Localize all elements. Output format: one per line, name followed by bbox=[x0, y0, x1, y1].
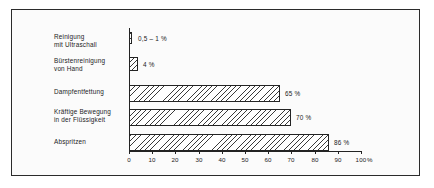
category-label-buerstenreinigung-von-hand: Bürstenreinigung von Hand bbox=[54, 57, 132, 73]
bar-kraeftige-bewegung bbox=[129, 109, 291, 126]
bar-buerstenreinigung-von-hand bbox=[129, 57, 138, 71]
y-axis-line bbox=[129, 28, 130, 152]
category-label-reinigung-mit-ultraschall: Reinigung mit Ultraschall bbox=[54, 33, 132, 49]
bar-abspritzen bbox=[129, 134, 329, 151]
x-axis-unit-label: % bbox=[367, 156, 373, 163]
x-tick-label-90: 90 bbox=[334, 156, 341, 163]
x-tick-label-0: 0 bbox=[127, 156, 131, 163]
bar-value-kraeftige-bewegung: 70 % bbox=[296, 114, 311, 121]
x-tick-label-100: 100 bbox=[356, 156, 367, 163]
bar-value-reinigung-mit-ultraschall: 0,5 – 1 % bbox=[138, 35, 167, 42]
x-tick-label-60: 60 bbox=[264, 156, 271, 163]
x-tick-50 bbox=[245, 151, 246, 154]
x-tick-label-50: 50 bbox=[241, 156, 248, 163]
category-label-kraeftige-bewegung: Kräftige Bewegung in der Flüssigkeit bbox=[54, 108, 132, 124]
category-label-dampfentfettung: Dampfentfettung bbox=[54, 88, 132, 96]
bar-chart-plot-area: Reinigung mit Ultraschall Bürstenreinigu… bbox=[12, 10, 421, 177]
x-tick-100 bbox=[361, 151, 362, 154]
bar-value-abspritzen: 86 % bbox=[334, 139, 349, 146]
x-tick-30 bbox=[199, 151, 200, 154]
x-tick-label-30: 30 bbox=[195, 156, 202, 163]
x-tick-20 bbox=[175, 151, 176, 154]
x-tick-90 bbox=[338, 151, 339, 154]
x-tick-40 bbox=[222, 151, 223, 154]
x-tick-label-10: 10 bbox=[148, 156, 155, 163]
x-tick-70 bbox=[291, 151, 292, 154]
x-tick-10 bbox=[152, 151, 153, 154]
x-tick-label-80: 80 bbox=[311, 156, 318, 163]
x-tick-label-20: 20 bbox=[171, 156, 178, 163]
bar-dampfentfettung bbox=[129, 85, 280, 102]
bar-value-dampfentfettung: 65 % bbox=[285, 90, 300, 97]
bar-value-buerstenreinigung-von-hand: 4 % bbox=[143, 61, 155, 68]
x-tick-label-40: 40 bbox=[218, 156, 225, 163]
category-label-abspritzen: Abspritzen bbox=[54, 138, 132, 146]
x-tick-0 bbox=[129, 151, 130, 154]
x-tick-80 bbox=[315, 151, 316, 154]
x-tick-60 bbox=[268, 151, 269, 154]
chart-frame: Reinigung mit Ultraschall Bürstenreinigu… bbox=[11, 9, 420, 176]
x-tick-label-70: 70 bbox=[287, 156, 294, 163]
